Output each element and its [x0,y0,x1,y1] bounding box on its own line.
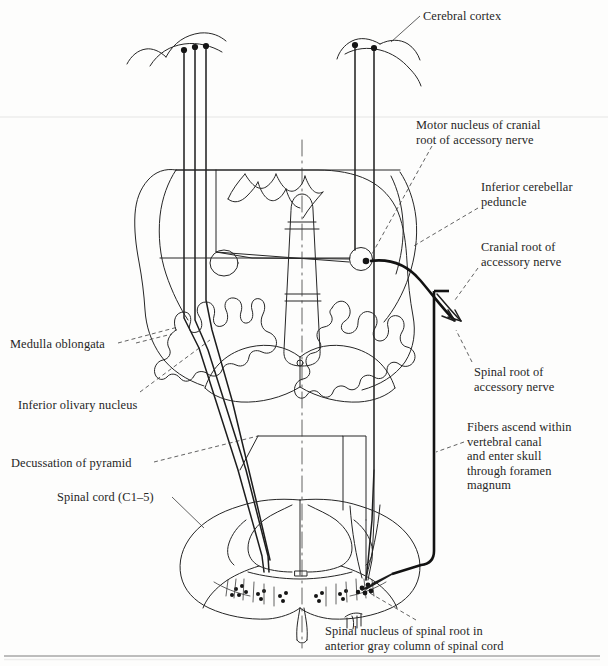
label-medulla-oblongata: Medulla oblongata [10,337,105,352]
label-decussation-of-pyramid: Decussation of pyramid [11,456,132,471]
figure-page: .s { fill:none; stroke:#262626; stroke-w… [0,0,608,666]
cortical-neuron-left-3 [203,43,209,49]
leader-spinal-root [456,330,472,362]
medullary-pyramids [205,345,395,402]
label-spinal-root-of-accessory-nerve: Spinal root of accessory nerve [474,365,554,394]
cerebral-cortex-right [337,39,421,86]
ascending-spinal-root-fibers [350,470,380,580]
cerebral-cortex-left [127,33,226,66]
spinal-root-accessory-nerve [362,291,449,590]
leader-inferior-peduncle [412,208,478,247]
cortical-neuron-right-2 [371,45,377,51]
anatomy-figure: .s { fill:none; stroke:#262626; stroke-w… [0,0,608,666]
bottom-rule [4,656,600,660]
leader-motor-nucleus [372,146,432,254]
label-inferior-cerebellar-peduncle: Inferior cerebellar peduncle [481,180,573,209]
label-inferior-olivary-nucleus: Inferior olivary nucleus [18,398,137,413]
cortical-neuron-left-1 [181,47,187,53]
decussation-of-pyramid [240,436,366,520]
median-column [284,194,321,366]
cortical-neuron-left-2 [192,44,198,50]
label-fibers-ascend-within-vertebral-canal: Fibers ascend within vertebral canal and… [467,420,572,493]
motor-nucleus-circle [350,248,373,271]
left-small-nucleus-circle [210,250,238,276]
corticospinal-fiber-right [366,51,374,580]
leader-cranial-root [455,268,478,300]
fourth-ventricle-roof [228,174,323,218]
cortical-neuron-right-1 [352,42,358,48]
corticobulbar-relay-path [160,170,350,262]
label-cerebral-cortex: Cerebral cortex [423,9,501,24]
label-spinal-nucleus-of-spinal-root: Spinal nucleus of spinal root in anterio… [325,624,504,653]
corticospinal-fiber-left-inner [206,49,270,560]
leader-fibers-ascend [436,442,464,452]
leader-spinal-cord [172,497,204,528]
label-cranial-root-of-accessory-nerve: Cranial root of accessory nerve [481,240,561,269]
label-motor-nucleus-of-cranial-root: Motor nucleus of cranial root of accesso… [416,118,541,147]
leader-cerebral-cortex [391,16,420,42]
label-spinal-cord-c1-5: Spinal cord (C1–5) [57,490,154,505]
anterior-horn-cell-cluster-left [214,579,288,606]
